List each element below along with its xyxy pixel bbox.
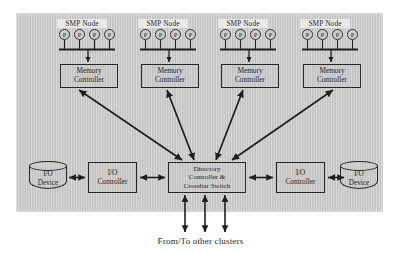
figure-caption: From/To other clusters [0,236,401,246]
figure-canvas: SMP Node P P P P Memory Controller SMP N… [0,0,401,253]
connector-layer [0,0,401,253]
